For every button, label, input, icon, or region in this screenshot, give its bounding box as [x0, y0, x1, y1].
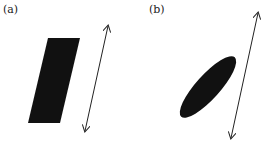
diagram-canvas [0, 0, 273, 147]
ellipse-shape [172, 49, 243, 125]
panel-b-double-arrow [231, 13, 258, 138]
parallelogram-shape [28, 38, 80, 123]
panel-a-double-arrow [85, 26, 108, 131]
